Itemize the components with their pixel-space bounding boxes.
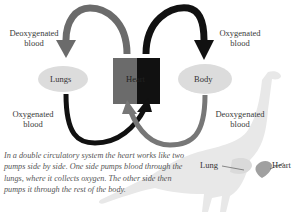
label-deoxygenated-top: Deoxygenated blood	[4, 28, 64, 48]
label-deoxygenated-bottom: Deoxygenated blood	[210, 109, 270, 129]
dino-heart-label: Heart	[272, 160, 291, 170]
label-lungs: Lungs	[50, 74, 71, 84]
caption: In a double circulatory system the heart…	[4, 150, 194, 196]
label-body: Body	[194, 74, 212, 84]
label-oxygenated-bottom: Oxygenated blood	[8, 109, 58, 129]
label-heart: Heart	[126, 74, 156, 84]
circulation-diagram: Deoxygenated blood Oxygenated blood Oxyg…	[0, 0, 300, 215]
dino-heart	[255, 161, 272, 178]
label-oxygenated-top: Oxygenated blood	[210, 28, 270, 48]
dino-lung-label: Lung	[200, 160, 218, 170]
